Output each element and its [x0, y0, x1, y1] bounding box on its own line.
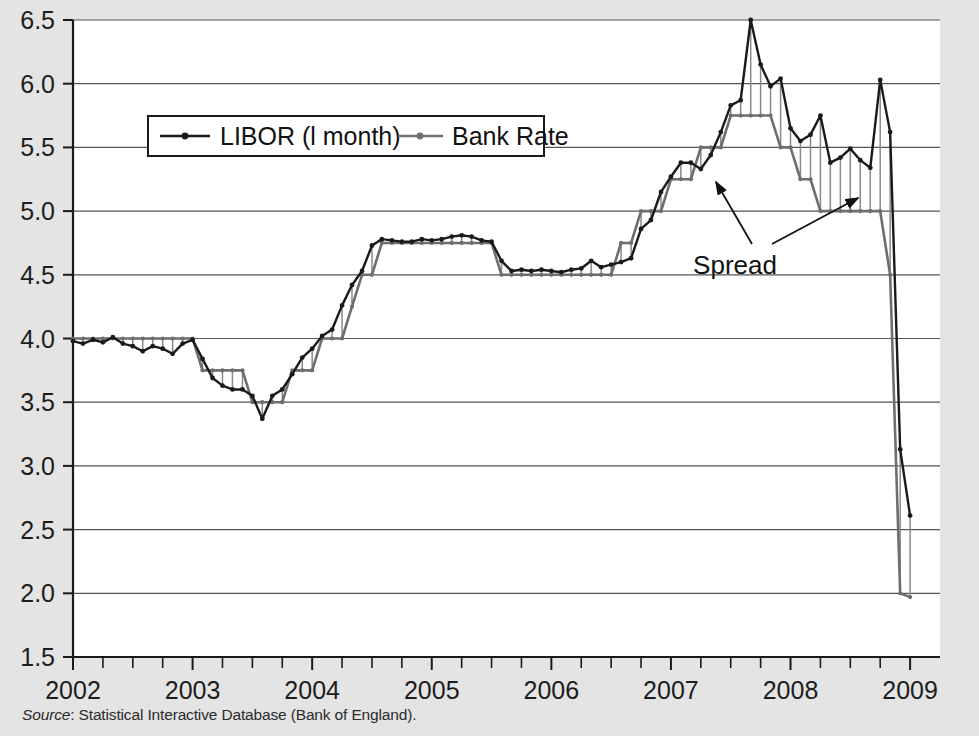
x-axis: 20022003200420052006200720082009 [45, 657, 938, 700]
libor-data-point [350, 283, 355, 288]
libor-data-point [180, 341, 185, 346]
y-tick-label-5.0: 5.0 [20, 197, 55, 225]
libor-data-point [619, 260, 624, 265]
libor-data-point [788, 126, 793, 131]
libor-data-point [898, 447, 903, 452]
libor-data-point [718, 130, 723, 135]
figure-container: 1.52.02.53.03.54.04.55.05.56.06.5 200220… [0, 0, 979, 736]
libor-data-point [659, 190, 664, 195]
libor-data-point [260, 416, 265, 421]
bank_rate-data-point [499, 273, 503, 277]
libor-data-point [220, 383, 225, 388]
y-tick-label-4.5: 4.5 [20, 261, 55, 289]
libor-data-point [878, 77, 883, 82]
libor-data-point [649, 218, 654, 223]
libor-data-point [808, 132, 813, 137]
libor-data-point [330, 327, 335, 332]
bank_rate-data-point [141, 336, 145, 340]
bank_rate-data-point [629, 241, 633, 245]
libor-data-point [210, 376, 215, 381]
x-tick-label-2006: 2006 [524, 676, 580, 700]
x-tick-label-2007: 2007 [643, 676, 699, 700]
bank_rate-data-point [220, 368, 224, 372]
x-tick-label-2008: 2008 [763, 676, 819, 700]
bank_rate-data-point [878, 209, 882, 213]
source-prefix: Source [22, 706, 70, 723]
libor-data-point [908, 513, 913, 518]
bank_rate-data-point [659, 209, 663, 213]
bank_rate-data-point [788, 145, 792, 149]
libor-data-point [848, 146, 853, 151]
x-tick-label-2002: 2002 [45, 676, 101, 700]
libor-data-point [559, 270, 564, 275]
libor-data-point [360, 269, 365, 274]
y-tick-label-3.0: 3.0 [20, 452, 55, 480]
libor-data-point [539, 267, 544, 272]
legend-swatch-bank-rate-marker [417, 133, 424, 140]
libor-data-point [379, 237, 384, 242]
libor-data-point [678, 160, 683, 165]
libor-data-point [589, 258, 594, 263]
libor-bank-rate-line-chart: 1.52.02.53.03.54.04.55.05.56.06.5 200220… [0, 0, 979, 700]
libor-data-point [140, 349, 145, 354]
y-tick-label-2.0: 2.0 [20, 579, 55, 607]
bank_rate-data-point [579, 273, 583, 277]
x-tick-label-2009: 2009 [882, 676, 938, 700]
libor-data-point [479, 238, 484, 243]
libor-data-point [738, 98, 743, 103]
legend-label-bank-rate: Bank Rate [452, 122, 569, 150]
chart-legend: LIBOR (l month) Bank Rate [148, 116, 569, 156]
libor-data-point [818, 113, 823, 118]
libor-data-point [599, 265, 604, 270]
bank_rate-data-point [280, 400, 284, 404]
bank_rate-data-point [300, 368, 304, 372]
libor-data-point [101, 340, 106, 345]
source-text: Statistical Interactive Database (Bank o… [79, 706, 417, 723]
libor-data-point [499, 258, 504, 263]
bank_rate-data-point [719, 145, 723, 149]
bank_rate-data-point [161, 336, 165, 340]
y-axis: 1.52.02.53.03.54.04.55.05.56.06.5 [20, 6, 73, 671]
libor-data-point [489, 239, 494, 244]
bank_rate-data-point [858, 209, 862, 213]
bank_rate-data-point [729, 113, 733, 117]
libor-data-point [240, 387, 245, 392]
legend-label-libor: LIBOR (l month) [220, 122, 401, 150]
libor-data-point [768, 84, 773, 89]
libor-data-point [629, 256, 634, 261]
bank_rate-data-point [749, 113, 753, 117]
bank_rate-data-point [848, 209, 852, 213]
bank_rate-data-point [639, 209, 643, 213]
bank_rate-data-point [908, 595, 912, 599]
libor-data-point [609, 262, 614, 267]
libor-data-point [250, 393, 255, 398]
y-tick-label-2.5: 2.5 [20, 516, 55, 544]
bank_rate-data-point [310, 368, 314, 372]
libor-data-point [798, 139, 803, 144]
libor-data-point [150, 344, 155, 349]
bank_rate-data-point [330, 336, 334, 340]
libor-data-point [91, 337, 96, 342]
libor-data-point [509, 269, 514, 274]
bank_rate-data-point [739, 113, 743, 117]
libor-data-point [399, 239, 404, 244]
bank_rate-data-point [200, 368, 204, 372]
libor-data-point [130, 344, 135, 349]
bank_rate-data-point [340, 336, 344, 340]
libor-data-point [459, 233, 464, 238]
source-note: Source: Statistical Interactive Database… [22, 706, 416, 724]
libor-data-point [778, 76, 783, 81]
bank_rate-data-point [230, 368, 234, 372]
libor-data-point [310, 346, 315, 351]
libor-data-point [409, 239, 414, 244]
bank_rate-data-point [519, 273, 523, 277]
bank_rate-data-point [81, 336, 85, 340]
libor-data-point [290, 372, 295, 377]
bank_rate-data-point [240, 368, 244, 372]
libor-data-point [320, 334, 325, 339]
bank_rate-data-point [778, 145, 782, 149]
bank_rate-data-point [151, 336, 155, 340]
libor-data-point [888, 130, 893, 135]
y-tick-label-3.5: 3.5 [20, 388, 55, 416]
bank_rate-data-point [460, 241, 464, 245]
